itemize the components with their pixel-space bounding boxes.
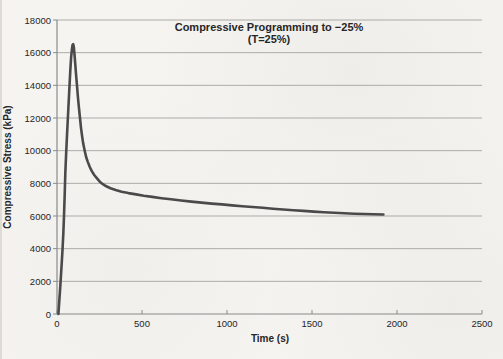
series-line-compressive-stress <box>58 44 383 314</box>
y-tick-label: 4000 <box>30 243 51 254</box>
y-tick-label: 10000 <box>25 145 51 156</box>
scanned-figure-page: 0200040006000800010000120001400016000180… <box>0 0 503 359</box>
y-tick-label: 0 <box>46 309 51 320</box>
chart-title: Compressive Programming to −25% <box>175 21 364 33</box>
y-tick-label: 8000 <box>30 178 51 189</box>
x-tick-label: 500 <box>134 318 150 329</box>
scan-edge-artifact <box>0 0 2 359</box>
y-axis-title: Compressive Stress (kPa) <box>2 105 13 228</box>
y-tick-label: 12000 <box>25 113 51 124</box>
x-tick-label: 2500 <box>471 318 492 329</box>
x-tick-label: 1000 <box>216 318 237 329</box>
x-axis-title: Time (s) <box>251 333 289 344</box>
y-tick-label: 14000 <box>25 80 51 91</box>
chart-subtitle: (T=25%) <box>248 33 291 45</box>
x-tick-label: 1500 <box>301 318 322 329</box>
y-tick-label: 6000 <box>30 211 51 222</box>
stress-time-chart: 0200040006000800010000120001400016000180… <box>0 0 503 359</box>
chart-canvas: 0200040006000800010000120001400016000180… <box>0 0 503 359</box>
x-tick-label: 0 <box>54 318 59 329</box>
y-tick-label: 18000 <box>25 15 51 26</box>
x-tick-label: 2000 <box>386 318 407 329</box>
y-tick-label: 2000 <box>30 276 51 287</box>
y-tick-label: 16000 <box>25 47 51 58</box>
